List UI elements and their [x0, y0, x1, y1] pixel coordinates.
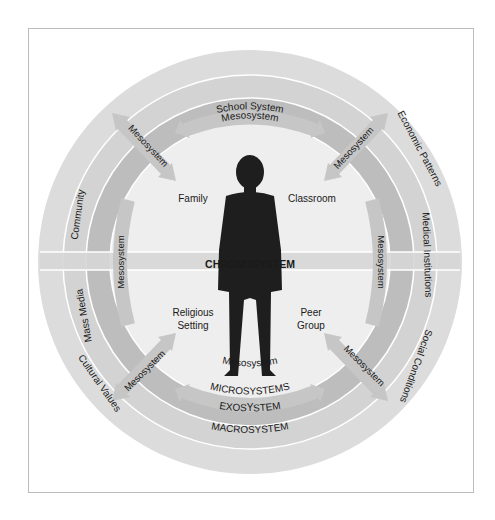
peer-label: Peer	[300, 307, 322, 318]
group-label: Group	[297, 320, 325, 331]
meso-label-left: Mesosystem	[115, 235, 126, 288]
chronosystem-label: CHRONOSYSTEM	[205, 258, 295, 270]
setting-label: Setting	[177, 320, 208, 331]
family-label: Family	[178, 193, 207, 204]
ecological-systems-diagram: CHRONOSYSTEM School System Mesosystem Me…	[0, 0, 495, 520]
religious-label: Religious	[172, 307, 213, 318]
meso-label-right: Mesosystem	[376, 235, 387, 288]
classroom-label: Classroom	[288, 193, 336, 204]
